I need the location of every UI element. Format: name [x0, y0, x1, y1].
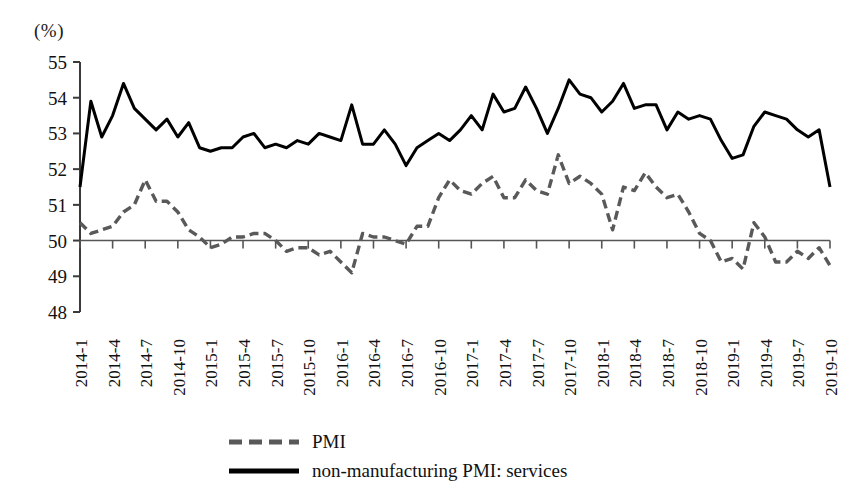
x-axis-tick-label: 2017-1: [463, 339, 482, 387]
x-axis-tick-label: 2017-4: [496, 339, 515, 388]
x-axis-tick-label: 2016-7: [398, 339, 417, 388]
x-axis-tick-label: 2016-10: [431, 339, 450, 396]
y-axis-tick-label: 50: [48, 231, 67, 252]
legend-item-pmi: PMI: [228, 427, 748, 456]
y-axis-tick-label: 52: [48, 159, 67, 180]
x-axis-tick-label: 2018-10: [692, 339, 711, 396]
legend-label-non-manufacturing: non-manufacturing PMI: services: [312, 460, 567, 482]
x-axis-tick-label: 2017-7: [529, 339, 548, 388]
y-axis-tick-label: 51: [48, 195, 67, 216]
x-axis-tick-label: 2014-10: [170, 339, 189, 396]
chart-plot-area: 5554535251504948 2014-12014-42014-72014-…: [0, 0, 849, 495]
chart-legend: PMI non-manufacturing PMI: services: [228, 427, 748, 485]
x-axis-tick-label: 2018-1: [594, 339, 613, 387]
x-axis-tick-label: 2018-7: [659, 339, 678, 388]
legend-label-pmi: PMI: [312, 431, 346, 453]
x-axis-tick-label: 2019-10: [822, 339, 841, 396]
x-axis-tick-label: 2016-1: [333, 339, 352, 387]
pmi-chart-figure: (%) 5554535251504948 2014-12014-42014-72…: [0, 0, 849, 495]
x-axis-tick-label: 2015-7: [268, 339, 287, 388]
x-axis-tick-label: 2018-4: [626, 339, 645, 388]
legend-swatch-dashed: [228, 435, 300, 449]
series-layer: [80, 80, 830, 273]
x-axis-tick-label: 2014-7: [137, 339, 156, 388]
x-axis-tick-label: 2014-4: [105, 339, 124, 388]
x-axis-tick-label: 2016-4: [365, 339, 384, 388]
y-axis-tick-label: 48: [48, 302, 67, 323]
y-axis-tick-label: 54: [48, 88, 68, 109]
x-axis-tick-label: 2015-10: [300, 339, 319, 396]
y-axis-tick-label: 53: [48, 123, 67, 144]
x-axis-tick-label: 2015-1: [202, 339, 221, 387]
y-axis-tick-label: 55: [48, 52, 67, 73]
x-axis-tick-labels: 2014-12014-42014-72014-102015-12015-4201…: [72, 339, 841, 396]
y-axis-tick-label: 49: [48, 266, 67, 287]
legend-swatch-solid: [228, 464, 300, 478]
series-line-non-manufacturing-pmi-services: [80, 80, 830, 187]
x-axis-tick-label: 2014-1: [72, 339, 91, 387]
x-axis-tick-label: 2019-1: [724, 339, 743, 387]
legend-item-non-manufacturing: non-manufacturing PMI: services: [228, 456, 748, 485]
x-axis-tick-label: 2017-10: [561, 339, 580, 396]
x-axis-tick-label: 2019-4: [757, 339, 776, 388]
axis-layer: 5554535251504948: [48, 52, 830, 323]
series-line-pmi: [80, 155, 830, 273]
x-axis-tick-label: 2015-4: [235, 339, 254, 388]
x-axis-tick-label: 2019-7: [789, 339, 808, 388]
